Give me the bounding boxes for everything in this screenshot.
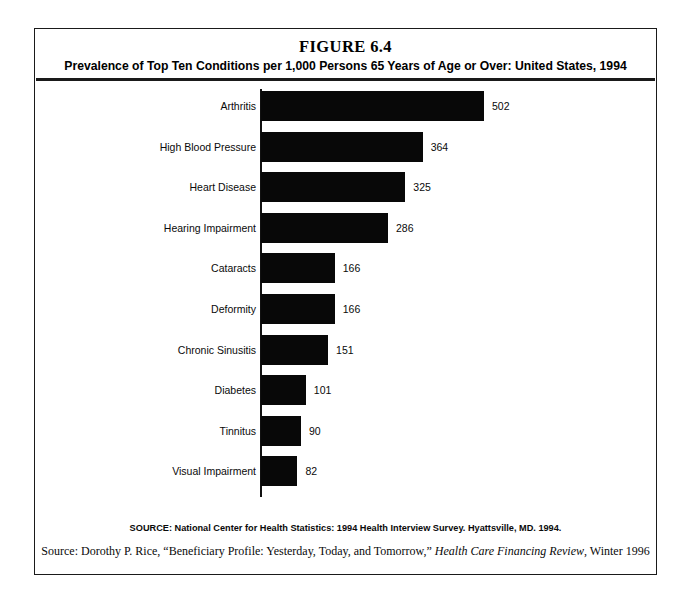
citation-line: Source: Dorothy P. Rice, “Beneficiary Pr… [35,544,656,559]
bar [261,456,297,486]
bar-value-label: 101 [314,384,332,396]
bar-row: Diabetes101 [35,375,656,405]
bar-row: High Blood Pressure364 [35,132,656,162]
bar [261,132,423,162]
bar-row: Visual Impairment82 [35,456,656,486]
figure-number-title: FIGURE 6.4 [35,37,656,57]
bar [261,213,388,243]
bar [261,416,301,446]
bar [261,375,306,405]
bar-category-label: Tinnitus [220,425,256,437]
bar-chart-plot-area: Arthritis502High Blood Pressure364Heart … [35,89,656,509]
bar-value-label: 166 [343,303,361,315]
bar-value-label: 90 [309,425,321,437]
bar [261,253,335,283]
bar-value-label: 82 [305,465,317,477]
bar-category-label: High Blood Pressure [160,141,256,153]
bar-value-label: 502 [492,100,510,112]
bar-row: Chronic Sinusitis151 [35,335,656,365]
bar-category-label: Visual Impairment [172,465,256,477]
bar-value-label: 166 [343,262,361,274]
figure-subtitle: Prevalence of Top Ten Conditions per 1,0… [35,59,656,73]
bar [261,172,405,202]
citation-prefix: Source: Dorothy P. Rice, “Beneficiary Pr… [41,544,434,558]
bar [261,335,328,365]
figure-page: FIGURE 6.4 Prevalence of Top Ten Conditi… [0,0,691,608]
bar-value-label: 151 [336,344,354,356]
bar-row: Tinnitus90 [35,416,656,446]
bar-row: Arthritis502 [35,91,656,121]
bar [261,91,484,121]
bar-category-label: Chronic Sinusitis [178,344,256,356]
figure-frame: FIGURE 6.4 Prevalence of Top Ten Conditi… [34,28,657,575]
bar-value-label: 286 [396,222,414,234]
citation-journal: Health Care Financing Review [435,544,584,558]
bar-category-label: Hearing Impairment [164,222,256,234]
bar-category-label: Cataracts [211,262,256,274]
bar-value-label: 325 [413,181,431,193]
bar [261,294,335,324]
bar-category-label: Diabetes [215,384,256,396]
bar-row: Cataracts166 [35,253,656,283]
bar-category-label: Deformity [211,303,256,315]
bar-row: Deformity166 [35,294,656,324]
bar-row: Hearing Impairment286 [35,213,656,243]
bar-row: Heart Disease325 [35,172,656,202]
bar-category-label: Heart Disease [189,181,256,193]
source-note: SOURCE: National Center for Health Stati… [35,523,656,533]
bar-value-label: 364 [431,141,449,153]
title-divider [36,78,655,81]
citation-suffix: , Winter 1996 [584,544,650,558]
bar-category-label: Arthritis [220,100,256,112]
